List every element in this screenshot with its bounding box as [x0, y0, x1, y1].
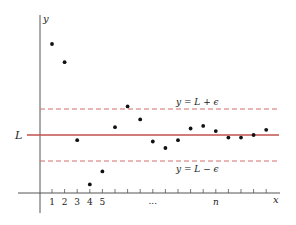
sequence-point	[214, 129, 218, 133]
x-tick-label: ...	[149, 196, 158, 206]
x-tick-label: 4	[87, 197, 93, 207]
sequence-point	[164, 146, 168, 150]
limit-label: L	[14, 129, 22, 142]
sequence-point	[113, 125, 117, 129]
sequence-point	[201, 124, 205, 128]
x-tick-label: n	[213, 197, 219, 207]
sequence-point	[264, 128, 268, 132]
sequence-convergence-chart: y x L y = L + ϵ y = L − ϵ 12345...n	[0, 0, 296, 225]
sequence-point	[88, 183, 92, 187]
x-tick-label: 2	[62, 197, 68, 207]
sequence-point	[138, 118, 142, 122]
sequence-point	[126, 105, 130, 109]
sequence-point	[176, 138, 180, 142]
x-axis-label: x	[273, 194, 279, 205]
upper-band-label: y = L + ϵ	[175, 97, 219, 107]
sequence-point	[227, 136, 231, 140]
sequence-point	[239, 136, 243, 140]
x-tick-labels: 12345...n	[49, 196, 219, 207]
sequence-point	[50, 42, 54, 46]
sequence-points	[50, 42, 268, 186]
sequence-point	[252, 133, 256, 137]
x-axis-ticks	[52, 189, 266, 193]
x-tick-label: 3	[74, 197, 80, 207]
lower-band-label: y = L − ϵ	[175, 164, 219, 174]
x-tick-label: 5	[100, 197, 106, 207]
sequence-point	[75, 138, 79, 142]
y-axis-label: y	[42, 13, 49, 24]
sequence-point	[189, 127, 193, 131]
sequence-point	[63, 60, 67, 64]
sequence-point	[151, 140, 155, 144]
sequence-point	[101, 170, 105, 174]
x-tick-label: 1	[49, 197, 55, 207]
